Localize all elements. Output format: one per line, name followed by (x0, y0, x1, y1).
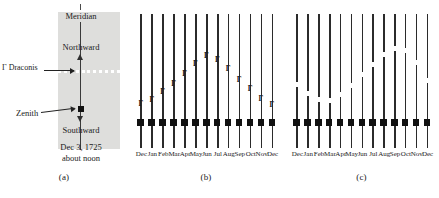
panel-b-caption: (b) (128, 172, 284, 182)
zenith-reference-marker (137, 119, 144, 126)
month-vertical-line (261, 14, 263, 148)
zenith-label: Zenith (16, 108, 38, 118)
observation-date-line2: about noon (40, 153, 122, 164)
month-label: Feb (314, 150, 325, 158)
month-label: Dec (292, 150, 303, 158)
zenith-reference-marker (170, 119, 177, 126)
panel-c-caption: (c) (284, 172, 439, 182)
zenith-reference-marker (359, 119, 366, 126)
zenith-reference-marker (337, 119, 344, 126)
month-label: Aug (378, 150, 390, 158)
star-position-marker (392, 46, 398, 51)
meridian-tick-top (80, 4, 81, 10)
star-position-marker: Γ (138, 100, 143, 107)
zenith-reference-marker (225, 119, 232, 126)
month-vertical-line (329, 14, 331, 148)
month-label: Dec (422, 150, 433, 158)
month-vertical-line (340, 14, 342, 148)
month-label: Mar (324, 150, 336, 158)
month-vertical-line (394, 14, 396, 148)
star-position-marker (360, 72, 366, 77)
zenith-reference-marker (293, 119, 300, 126)
month-vertical-line (162, 14, 164, 148)
month-label: May (190, 150, 203, 158)
star-position-marker: Γ (237, 76, 242, 83)
month-vertical-line (250, 14, 252, 148)
zenith-reference-marker (348, 119, 355, 126)
month-vertical-line (416, 14, 418, 148)
month-column (422, 14, 434, 148)
month-label: Dec (267, 150, 278, 158)
observation-date-line1: Dec 3, 1725 (40, 142, 122, 153)
zenith-reference-marker (203, 119, 210, 126)
star-position-marker (370, 62, 376, 67)
zenith-reference-marker (304, 119, 311, 126)
month-column: Γ (267, 14, 279, 148)
month-label: May (345, 150, 358, 158)
month-vertical-line (307, 14, 309, 148)
star-position-marker: Γ (182, 70, 187, 77)
month-label: Jul (369, 150, 377, 158)
month-vertical-line (272, 14, 274, 148)
zenith-reference-marker (424, 119, 431, 126)
northward-arrow-icon (77, 54, 83, 60)
star-position-marker (403, 48, 409, 53)
zenith-reference-marker (236, 119, 243, 126)
figure-root: Meridian Northward Southward Γ Draconis … (0, 0, 439, 198)
zenith-reference-marker (326, 119, 333, 126)
month-label: Jun (202, 150, 212, 158)
month-label: Dec (136, 150, 147, 158)
month-label: Sep (390, 150, 401, 158)
month-vertical-line (383, 14, 385, 148)
star-position-marker (414, 60, 420, 65)
month-vertical-line (296, 14, 298, 148)
southward-label: Southward (54, 125, 108, 135)
month-label: Nov (256, 150, 268, 158)
observation-date-label: Dec 3, 1725 about noon (40, 142, 122, 164)
month-label: Jun (358, 150, 368, 158)
zenith-reference-marker (413, 119, 420, 126)
month-label: Oct (401, 150, 411, 158)
gamma-draconis-label: Γ Draconis (2, 63, 38, 72)
month-vertical-line (184, 14, 186, 148)
star-position-marker (316, 97, 322, 102)
month-label: Jan (304, 150, 313, 158)
star-position-marker: Γ (193, 60, 198, 67)
zenith-reference-marker (148, 119, 155, 126)
month-vertical-line (195, 14, 197, 148)
zenith-reference-marker (269, 119, 276, 126)
panel-a-zenith-telescope-view: Meridian Northward Southward Γ Draconis … (0, 0, 128, 198)
star-position-marker: Γ (204, 52, 209, 59)
zenith-reference-marker (159, 119, 166, 126)
star-position-marker (294, 82, 300, 87)
panel-b-annual-positions: ΓΓΓΓΓΓΓΓΓΓΓΓΓ DecJanFebMarAprMayJunJulAu… (128, 0, 284, 198)
panel-a-caption: (a) (0, 172, 128, 182)
zenith-reference-marker (369, 119, 376, 126)
star-position-marker (327, 98, 333, 103)
zenith-reference-marker (214, 119, 221, 126)
month-label: Sep (235, 150, 246, 158)
star-position-marker: Γ (160, 88, 165, 95)
month-label: Oct (246, 150, 256, 158)
month-vertical-line (372, 14, 374, 148)
star-position-marker (381, 52, 387, 57)
star-position-marker: Γ (149, 96, 154, 103)
star-position-marker: Γ (171, 80, 176, 87)
month-vertical-line (228, 14, 230, 148)
month-vertical-line (151, 14, 153, 148)
meridian-label: Meridian (54, 11, 108, 21)
zenith-reference-marker (258, 119, 265, 126)
month-vertical-line (217, 14, 219, 148)
southward-arrow-icon (77, 116, 83, 122)
zenith-reference-marker (402, 119, 409, 126)
month-label: Feb (158, 150, 169, 158)
northward-label: Northward (54, 42, 108, 52)
month-vertical-line (318, 14, 320, 148)
star-position-marker (305, 91, 311, 96)
zenith-marker (78, 106, 84, 112)
month-label: Aug (223, 150, 235, 158)
star-position-marker: Γ (215, 56, 220, 63)
star-position-marker (425, 78, 431, 83)
zenith-reference-marker (181, 119, 188, 126)
month-vertical-line (351, 14, 353, 148)
